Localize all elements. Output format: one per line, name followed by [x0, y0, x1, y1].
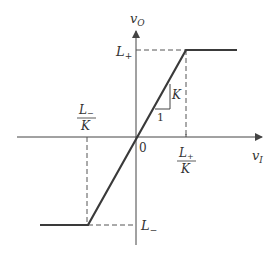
neg-threshold-label: L− K	[77, 103, 96, 133]
slope-triangle	[155, 84, 170, 109]
svg-text:L−: L−	[78, 103, 94, 118]
slope-rise-label: K	[171, 88, 182, 102]
origin-label: 0	[139, 141, 147, 155]
svg-text:L+: L+	[178, 146, 194, 161]
lower-limit-label: L−	[140, 218, 157, 235]
pos-threshold-label: L+ K	[177, 146, 196, 176]
upper-limit-label: L+	[115, 44, 132, 61]
x-axis-label: vI	[252, 148, 263, 165]
svg-text:K: K	[80, 119, 91, 133]
transfer-characteristic-diagram: vO vI 0 L+ L− L+ K L− K K 1	[0, 0, 278, 255]
svg-text:K: K	[180, 162, 191, 176]
y-axis-label: vO	[130, 11, 145, 28]
slope-run-label: 1	[157, 111, 164, 124]
